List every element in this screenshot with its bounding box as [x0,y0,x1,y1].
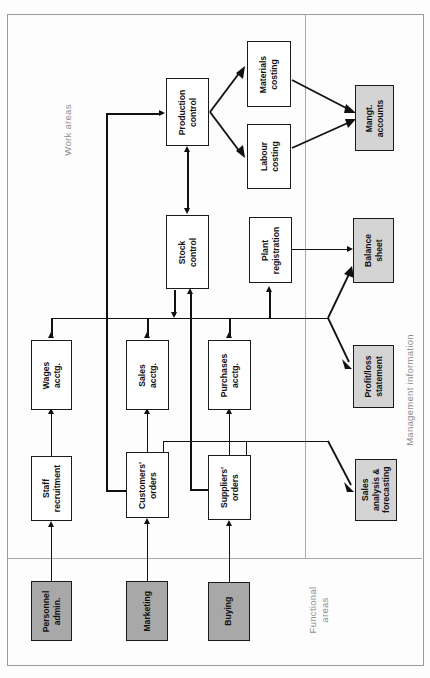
node-stock-control-label: Stock control [177,237,198,266]
node-customers-orders-label: Customers' orders [137,462,158,509]
node-wages-acctg[interactable]: Wages acctg. [31,340,72,410]
node-profit-loss-statement-label: Profit/loss statement [363,355,384,397]
node-customers-orders[interactable]: Customers' orders [126,452,169,518]
node-suppliers-orders[interactable]: Suppliers' orders [208,455,251,520]
node-buying-label: Buying [224,597,235,626]
node-sales-acctg[interactable]: Sales acctg. [126,340,169,410]
node-production-control-label: Production control [177,89,198,134]
node-balance-sheet-label: Balance sheet [363,234,384,267]
node-staff-recruitment[interactable]: Staff recruitment [31,456,72,521]
diagram-canvas: Work areas Management information Functi… [0,0,430,678]
node-profit-loss-statement[interactable]: Profit/loss statement [353,345,394,408]
node-personnel-admin-label: Personnel admin. [41,590,62,632]
edge-labour-to-mangt-line [292,122,350,148]
node-marketing-label: Marketing [142,591,153,632]
node-mangt-accounts[interactable]: Mangt. accounts [355,85,394,151]
node-sales-analysis-forecasting[interactable]: Sales analysis & forecasting [355,459,397,521]
node-mangt-accounts-label: Mangt. accounts [364,99,385,137]
node-staff-recruitment-label: Staff recruitment [41,465,62,512]
node-labour-costing[interactable]: Labour costing [247,124,291,189]
edge-materials-to-mangt-line [292,80,350,110]
node-plant-registration[interactable]: Plant registration [249,217,292,283]
node-materials-costing[interactable]: Materials costing [247,41,291,107]
node-sales-acctg-label: Sales acctg. [137,363,158,388]
node-stock-control[interactable]: Stock control [166,215,209,289]
node-purchases-acctg-label: Purchases acctg. [219,353,240,396]
node-production-control[interactable]: Production control [166,78,209,146]
node-balance-sheet[interactable]: Balance sheet [353,218,394,283]
node-purchases-acctg[interactable]: Purchases acctg. [208,340,251,410]
node-personnel-admin[interactable]: Personnel admin. [31,581,72,641]
node-marketing[interactable]: Marketing [126,581,168,641]
node-materials-costing-label: Materials costing [258,55,279,92]
node-wages-acctg-label: Wages acctg. [41,361,62,388]
node-plant-registration-label: Plant registration [260,226,281,273]
node-suppliers-orders-label: Suppliers' orders [219,467,240,508]
node-sales-analysis-forecasting-label: Sales analysis & forecasting [360,467,392,513]
node-buying[interactable]: Buying [208,582,250,641]
node-labour-costing-label: Labour costing [259,141,280,172]
